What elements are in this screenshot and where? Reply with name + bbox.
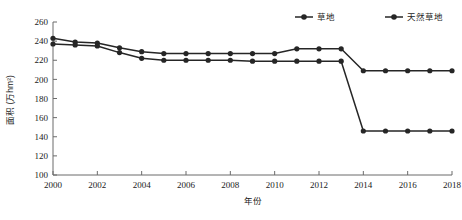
x-tick-label: 2014	[354, 180, 373, 190]
data-point	[250, 51, 255, 56]
data-point	[294, 59, 299, 64]
data-point	[73, 42, 78, 47]
y-tick-label: 140	[35, 132, 49, 142]
x-tick-label: 2004	[133, 180, 152, 190]
data-point	[405, 68, 410, 73]
x-tick-label: 2018	[443, 180, 462, 190]
y-tick-label: 100	[35, 170, 49, 180]
data-point	[50, 41, 55, 46]
x-tick-label: 2016	[399, 180, 418, 190]
x-axis-title: 年份	[244, 196, 262, 206]
data-point	[139, 49, 144, 54]
legend-label-0: 草地	[317, 12, 335, 22]
x-tick-label: 2002	[88, 180, 106, 190]
y-tick-label: 120	[35, 151, 49, 161]
data-point	[361, 128, 366, 133]
line-chart: 1001201401601802002202402602000200220042…	[0, 0, 462, 220]
data-point	[95, 43, 100, 48]
data-point	[228, 51, 233, 56]
y-tick-label: 240	[35, 36, 49, 46]
data-point	[117, 50, 122, 55]
x-tick-label: 2006	[177, 180, 196, 190]
data-point	[383, 68, 388, 73]
legend-label-1: 天然草地	[407, 12, 443, 22]
data-point	[161, 51, 166, 56]
data-point	[183, 58, 188, 63]
data-point	[449, 68, 454, 73]
data-point	[316, 46, 321, 51]
data-point	[361, 68, 366, 73]
data-point	[250, 59, 255, 64]
y-tick-label: 180	[35, 94, 49, 104]
y-tick-label: 200	[35, 75, 49, 85]
data-point	[427, 68, 432, 73]
data-point	[294, 46, 299, 51]
data-point	[427, 128, 432, 133]
data-point	[139, 56, 144, 61]
data-point	[405, 128, 410, 133]
legend-marker-dot-1	[391, 14, 397, 20]
legend-marker-dot-0	[301, 14, 307, 20]
data-point	[272, 51, 277, 56]
data-point	[183, 51, 188, 56]
y-tick-label: 160	[35, 113, 49, 123]
data-point	[449, 128, 454, 133]
data-point	[206, 51, 211, 56]
x-tick-label: 2010	[266, 180, 285, 190]
x-tick-label: 2008	[221, 180, 240, 190]
y-tick-label: 260	[35, 17, 49, 27]
data-point	[272, 59, 277, 64]
data-point	[228, 58, 233, 63]
data-point	[161, 58, 166, 63]
data-point	[316, 59, 321, 64]
y-tick-label: 220	[35, 55, 49, 65]
y-axis-title: 面积 (万hm²)	[5, 75, 15, 125]
data-point	[383, 128, 388, 133]
data-point	[117, 45, 122, 50]
data-point	[50, 36, 55, 41]
x-tick-label: 2012	[310, 180, 328, 190]
chart-canvas: 1001201401601802002202402602000200220042…	[0, 0, 462, 220]
data-point	[206, 58, 211, 63]
data-point	[339, 59, 344, 64]
x-tick-label: 2000	[44, 180, 63, 190]
data-point	[339, 46, 344, 51]
series-line-1	[53, 44, 452, 131]
